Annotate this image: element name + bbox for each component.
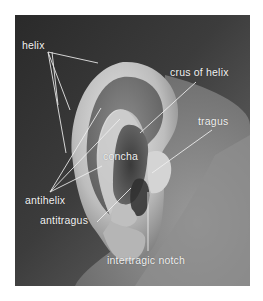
tragus-leader <box>152 130 212 173</box>
label-antihelix: antihelix <box>25 195 65 206</box>
helix-leader-1 <box>48 52 98 63</box>
crus-of-helix-leader <box>140 82 196 133</box>
label-concha: concha <box>103 151 138 162</box>
label-tragus: tragus <box>198 116 228 127</box>
label-antitragus: antitragus <box>40 215 88 226</box>
helix-leader-2 <box>48 52 70 110</box>
label-intertragic-notch: intertragic notch <box>107 255 185 266</box>
helix-leader-3 <box>48 52 66 153</box>
antitragus-leader <box>97 188 131 222</box>
label-crus-of-helix: crus of helix <box>170 67 229 78</box>
label-helix: helix <box>22 40 45 51</box>
